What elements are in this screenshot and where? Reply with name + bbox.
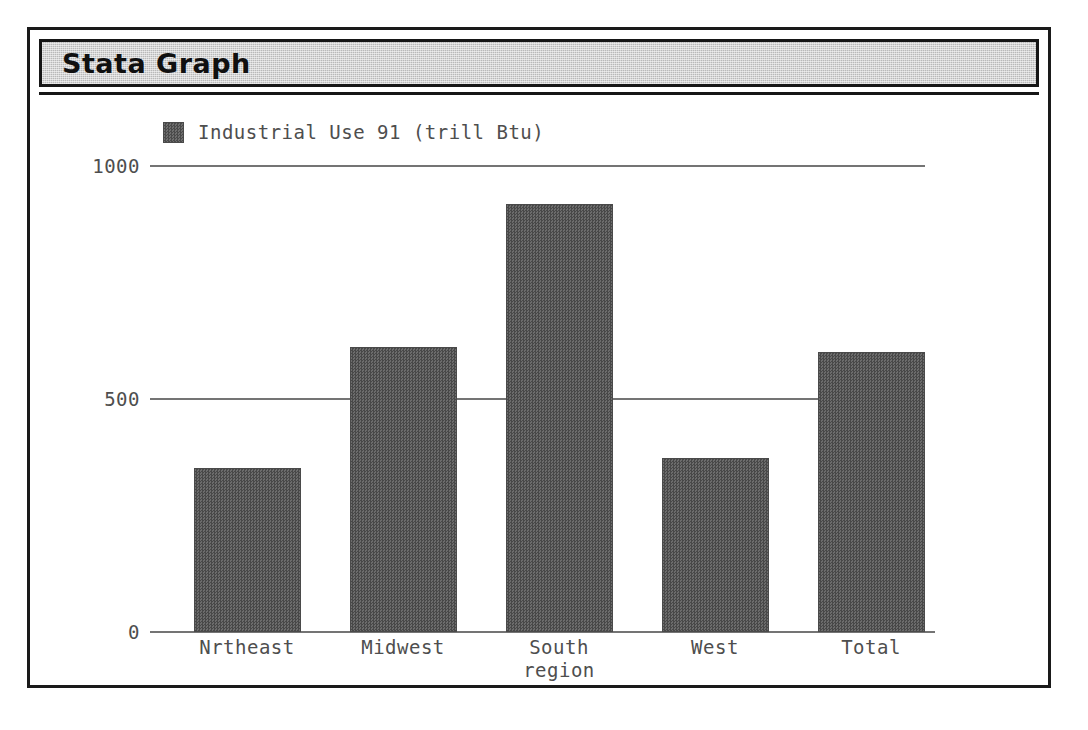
stata-graph-window: Stata Graph [27,27,1051,688]
window-title: Stata Graph [62,48,251,79]
titlebar-divider [39,92,1039,95]
window-titlebar: Stata Graph [39,39,1039,87]
